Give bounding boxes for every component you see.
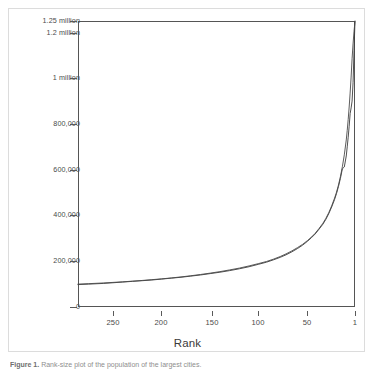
x-tick-label-150: 150 xyxy=(194,318,230,327)
y-tick-dash-1250000 xyxy=(70,21,77,22)
x-tick-label-250: 250 xyxy=(95,318,131,327)
x-tick-mark-1 xyxy=(355,311,356,316)
figure-caption: Figure 1. Rank-size plot of the populati… xyxy=(10,360,365,369)
x-tick-mark-250 xyxy=(113,311,114,316)
series-fitted-power-law xyxy=(78,21,355,284)
y-tick-dash-800000 xyxy=(70,124,77,125)
x-tick-label-100: 100 xyxy=(240,318,276,327)
y-tick-dash-0 xyxy=(70,307,77,308)
figure-caption-prefix: Figure 1. xyxy=(10,361,39,368)
figure-caption-text: Rank-size plot of the population of the … xyxy=(41,361,201,368)
y-tick-dash-200000 xyxy=(70,261,77,262)
x-tick-label-50: 50 xyxy=(289,318,325,327)
y-tick-dash-1200000 xyxy=(70,33,77,34)
series-observed-data xyxy=(78,21,355,285)
x-tick-mark-200 xyxy=(161,311,162,316)
x-tick-mark-150 xyxy=(212,311,213,316)
x-tick-label-200: 200 xyxy=(143,318,179,327)
x-tick-mark-100 xyxy=(258,311,259,316)
y-tick-dash-600000 xyxy=(70,170,77,171)
figure-root: 1.25 million 1.2 million 1 million 800,0… xyxy=(0,0,375,370)
chart-canvas xyxy=(78,21,355,307)
y-tick-dash-400000 xyxy=(70,215,77,216)
x-tick-label-1: 1 xyxy=(337,318,373,327)
x-tick-mark-50 xyxy=(307,311,308,316)
y-tick-dash-1000000 xyxy=(70,78,77,79)
x-axis-title: Rank xyxy=(0,337,375,349)
